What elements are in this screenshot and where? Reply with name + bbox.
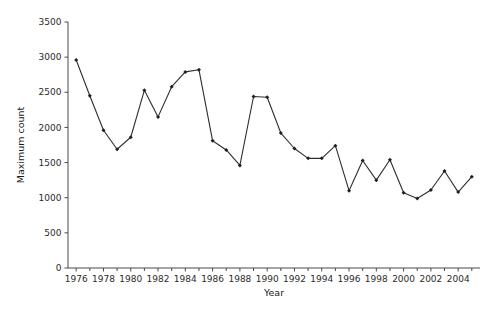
y-tick-label: 2000 [39,123,62,133]
x-tick-label: 1988 [228,274,251,284]
x-tick-label: 2002 [419,274,442,284]
x-tick-label: 1992 [283,274,306,284]
x-tick-label: 1984 [174,274,197,284]
x-tick-label: 1980 [119,274,142,284]
y-axis: 0500100015002000250030003500 [39,17,68,273]
y-tick-label: 500 [44,228,61,238]
x-axis-title: Year [263,287,284,298]
x-tick-label: 1994 [310,274,333,284]
x-tick-label: 1982 [147,274,170,284]
data-point-marker [74,58,78,62]
y-tick-label: 1500 [39,158,62,168]
data-point-marker [142,88,146,92]
chart-figure: 0500100015002000250030003500 19761978198… [0,0,498,309]
x-tick-label: 1986 [201,274,224,284]
line-chart: 0500100015002000250030003500 19761978198… [0,0,498,309]
series-line-maximum-count [76,60,472,198]
data-point-marker [88,94,92,98]
x-tick-label: 1998 [365,274,388,284]
x-tick-label: 2000 [392,274,415,284]
data-point-marker [197,68,201,72]
x-tick-label: 1978 [92,274,115,284]
data-point-marker [347,189,351,193]
y-tick-label: 2500 [39,87,62,97]
y-tick-label: 1000 [39,193,62,203]
x-tick-label: 2004 [447,274,470,284]
y-tick-label: 0 [56,263,62,273]
x-tick-label: 1990 [256,274,279,284]
y-tick-label: 3500 [39,17,62,27]
y-axis-title: Maximum count [15,106,26,183]
data-point-marker [252,95,256,99]
data-series-maximum-count [74,58,474,200]
data-point-marker [402,191,406,195]
x-tick-label: 1996 [338,274,361,284]
x-axis: 1976197819801982198419861988199019921994… [65,268,480,284]
data-point-marker [156,115,160,119]
y-tick-label: 3000 [39,52,62,62]
x-tick-label: 1976 [65,274,88,284]
data-point-marker [265,95,269,99]
